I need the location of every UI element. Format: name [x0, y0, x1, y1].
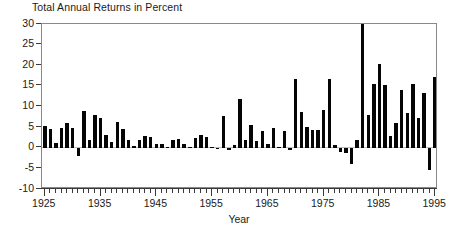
y-tick-label: 0	[28, 141, 34, 152]
bar	[428, 148, 431, 170]
x-tick-minor	[406, 189, 407, 193]
x-tick-minor	[261, 189, 262, 193]
x-tick-major	[100, 189, 101, 196]
plot-area	[41, 23, 437, 188]
bar	[233, 145, 236, 147]
bar	[316, 130, 319, 148]
x-tick-label: 1925	[32, 198, 55, 209]
bar	[255, 141, 258, 148]
bar	[367, 115, 370, 148]
bar	[238, 99, 241, 148]
x-tick-minor	[256, 189, 257, 193]
x-tick-minor	[233, 189, 234, 193]
x-tick-minor	[166, 189, 167, 193]
x-tick-minor	[295, 189, 296, 193]
bar	[49, 129, 52, 148]
x-axis-title: Year	[41, 213, 437, 225]
bar	[422, 93, 425, 147]
y-tick-label: 30	[22, 18, 34, 29]
bar	[333, 145, 336, 147]
x-tick-major	[323, 189, 324, 196]
x-tick-minor	[55, 189, 56, 193]
x-tick-minor	[49, 189, 50, 193]
x-tick-major	[211, 189, 212, 196]
x-tick-major	[155, 189, 156, 196]
y-tick-label: 10	[22, 100, 34, 111]
x-tick-minor	[373, 189, 374, 193]
x-tick-minor	[172, 189, 173, 193]
bar	[121, 129, 124, 148]
bar	[305, 127, 308, 148]
bar	[82, 111, 85, 147]
bar	[54, 143, 57, 148]
x-tick-minor	[367, 189, 368, 193]
x-tick-minor	[105, 189, 106, 193]
x-tick-label: 1935	[88, 198, 111, 209]
bar	[71, 128, 74, 147]
bar	[417, 118, 420, 148]
bar	[244, 140, 247, 148]
x-tick-major	[44, 189, 45, 196]
bar	[372, 84, 375, 148]
bar	[188, 147, 191, 148]
bar	[65, 123, 68, 148]
x-tick-minor	[61, 189, 62, 193]
y-tick-label: -5	[25, 162, 34, 173]
x-tick-label: 1945	[144, 198, 167, 209]
x-tick-minor	[200, 189, 201, 193]
bar	[116, 122, 119, 148]
bar	[272, 128, 275, 147]
x-tick-minor	[127, 189, 128, 193]
bar	[361, 24, 364, 147]
x-tick-minor	[222, 189, 223, 193]
bar	[400, 90, 403, 148]
x-tick-minor	[306, 189, 307, 193]
bar	[406, 113, 409, 148]
bar	[266, 144, 269, 148]
bar	[355, 140, 358, 147]
bar	[378, 64, 381, 148]
bar	[210, 147, 213, 148]
x-tick-minor	[345, 189, 346, 193]
x-tick-minor	[245, 189, 246, 193]
x-tick-label: 1955	[199, 198, 222, 209]
x-tick-minor	[278, 189, 279, 193]
bar	[149, 137, 152, 147]
bar	[155, 144, 158, 148]
bar	[350, 148, 353, 165]
x-tick-minor	[412, 189, 413, 193]
x-tick-minor	[83, 189, 84, 193]
x-tick-minor	[178, 189, 179, 193]
x-tick-minor	[217, 189, 218, 193]
x-tick-minor	[77, 189, 78, 193]
bar	[294, 79, 297, 148]
bar	[43, 126, 46, 148]
x-tick-minor	[161, 189, 162, 193]
bar	[132, 146, 135, 148]
bar	[99, 118, 102, 148]
bar	[138, 140, 141, 148]
bar-series	[42, 24, 436, 187]
chart-figure: Total Annual Returns in Percent 30252015…	[0, 0, 456, 232]
bar	[288, 148, 291, 150]
x-tick-minor	[239, 189, 240, 193]
x-tick-minor	[429, 189, 430, 193]
bar	[177, 139, 180, 148]
bar	[127, 140, 130, 148]
bar	[328, 79, 331, 148]
x-tick-minor	[401, 189, 402, 193]
bar	[339, 148, 342, 153]
bar	[222, 116, 225, 148]
bar	[311, 130, 314, 148]
x-tick-minor	[334, 189, 335, 193]
x-tick-minor	[300, 189, 301, 193]
bar	[104, 135, 107, 148]
x-tick-minor	[122, 189, 123, 193]
x-tick-minor	[312, 189, 313, 193]
x-tick-minor	[150, 189, 151, 193]
x-tick-minor	[356, 189, 357, 193]
x-tick-minor	[133, 189, 134, 193]
bar	[261, 131, 264, 148]
x-tick-minor	[390, 189, 391, 193]
bar	[227, 148, 230, 150]
